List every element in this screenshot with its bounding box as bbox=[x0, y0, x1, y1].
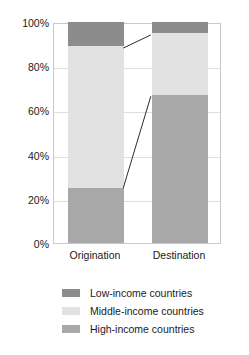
bar-stack-origination bbox=[68, 22, 124, 243]
y-tick-label: 100% bbox=[22, 18, 49, 29]
stacked-bar-chart: 100%80%60%40%20%0% OriginationDestinatio… bbox=[0, 0, 249, 355]
y-tick-label: 80% bbox=[28, 62, 49, 73]
legend-swatch-icon bbox=[62, 307, 80, 315]
x-tick-label: Destination bbox=[153, 249, 206, 262]
bar-segment-low-income-countries bbox=[152, 22, 208, 33]
middle-income-connector bbox=[123, 35, 151, 48]
y-tick-label: 20% bbox=[28, 194, 49, 205]
legend-swatch-icon bbox=[62, 325, 80, 333]
x-axis: OriginationDestination bbox=[53, 249, 221, 265]
bar-segment-low-income-countries bbox=[68, 22, 124, 46]
legend-swatch-icon bbox=[62, 289, 80, 297]
bar-stack-destination bbox=[152, 22, 208, 243]
legend-item: High-income countries bbox=[62, 321, 232, 337]
legend-item: Low-income countries bbox=[62, 285, 232, 301]
y-axis: 100%80%60%40%20%0% bbox=[0, 23, 49, 244]
y-tick-label: 40% bbox=[28, 150, 49, 161]
legend-label: Middle-income countries bbox=[90, 305, 204, 317]
bar-segment-high-income-countries bbox=[152, 95, 208, 243]
plot-area bbox=[53, 23, 221, 244]
legend-item: Middle-income countries bbox=[62, 303, 232, 319]
legend-label: High-income countries bbox=[90, 323, 194, 335]
high-income-connector bbox=[123, 96, 151, 188]
x-tick-label: Origination bbox=[70, 249, 121, 262]
y-tick-label: 0% bbox=[34, 239, 49, 250]
bar-segment-middle-income-countries bbox=[152, 33, 208, 95]
bar-segment-middle-income-countries bbox=[68, 46, 124, 187]
bar-segment-high-income-countries bbox=[68, 188, 124, 243]
legend-label: Low-income countries bbox=[90, 287, 192, 299]
y-tick-label: 60% bbox=[28, 106, 49, 117]
legend: Low-income countriesMiddle-income countr… bbox=[62, 285, 232, 339]
